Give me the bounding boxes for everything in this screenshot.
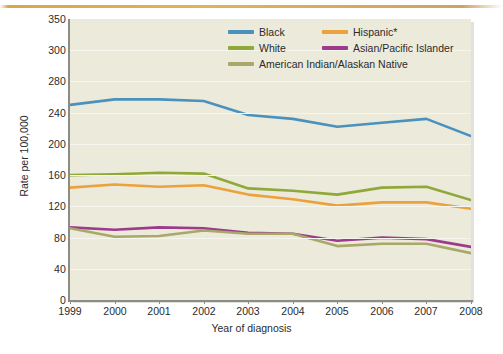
y-tick-label: 120 xyxy=(8,201,66,211)
x-tick-label: 2003 xyxy=(225,305,271,317)
legend-label: American Indian/Alaskan Native xyxy=(259,58,408,70)
y-tick-label: 160 xyxy=(8,170,66,180)
y-tick-label: 240 xyxy=(8,108,66,118)
legend-swatch-icon xyxy=(228,46,254,50)
x-tick-mark xyxy=(382,300,383,304)
legend-entry: Black xyxy=(228,26,322,38)
y-tick-label: 200 xyxy=(8,139,66,149)
x-tick-label: 2007 xyxy=(403,305,449,317)
gridline xyxy=(70,81,471,82)
legend-swatch-icon xyxy=(228,62,254,66)
x-tick-label: 2006 xyxy=(359,305,405,317)
legend-row: American Indian/Alaskan Native xyxy=(228,56,468,72)
legend-swatch-icon xyxy=(322,30,348,34)
x-tick-label: 2002 xyxy=(181,305,227,317)
x-tick-label: 2004 xyxy=(270,305,316,317)
x-axis-line xyxy=(68,300,473,302)
legend-entry: Asian/Pacific Islander xyxy=(322,42,453,54)
y-axis-line xyxy=(68,19,70,302)
gridline xyxy=(70,238,471,239)
y-tick-label: 350 xyxy=(8,14,66,24)
legend-entry: Hispanic* xyxy=(322,26,397,38)
y-axis-tick-labels: 35030028024020016012080400 xyxy=(0,0,66,354)
x-axis-title: Year of diagnosis xyxy=(0,322,503,334)
legend-swatch-icon xyxy=(228,30,254,34)
x-tick-mark xyxy=(248,300,249,304)
x-tick-mark xyxy=(70,300,71,304)
legend-swatch-icon xyxy=(322,46,348,50)
y-tick-label: 300 xyxy=(8,45,66,55)
gridline xyxy=(70,206,471,207)
legend-label: Black xyxy=(259,26,285,38)
y-tick-label: 40 xyxy=(8,264,66,274)
y-tick-label: 280 xyxy=(8,76,66,86)
series-line xyxy=(70,99,471,136)
x-tick-label: 2001 xyxy=(136,305,182,317)
x-tick-mark xyxy=(337,300,338,304)
y-axis-title: Rate per 100,000 xyxy=(18,96,30,216)
gridline xyxy=(70,113,471,114)
legend-entry: American Indian/Alaskan Native xyxy=(228,58,408,70)
x-tick-mark xyxy=(204,300,205,304)
x-tick-mark xyxy=(115,300,116,304)
x-tick-mark xyxy=(293,300,294,304)
x-tick-mark xyxy=(159,300,160,304)
x-tick-label: 2008 xyxy=(448,305,494,317)
x-tick-mark xyxy=(426,300,427,304)
legend-label: White xyxy=(259,42,286,54)
legend-label: Asian/Pacific Islander xyxy=(353,42,453,54)
chart-legend: BlackHispanic*WhiteAsian/Pacific Islande… xyxy=(228,24,468,72)
y-tick-label: 80 xyxy=(8,233,66,243)
legend-entry: White xyxy=(228,42,322,54)
x-tick-mark xyxy=(471,300,472,304)
series-line xyxy=(70,228,471,253)
legend-row: BlackHispanic* xyxy=(228,24,468,40)
legend-row: WhiteAsian/Pacific Islander xyxy=(228,40,468,56)
gridline xyxy=(70,269,471,270)
legend-label: Hispanic* xyxy=(353,26,397,38)
gridline xyxy=(70,175,471,176)
x-tick-label: 2000 xyxy=(92,305,138,317)
line-chart-figure: 35030028024020016012080400 1999200020012… xyxy=(0,0,503,354)
gridline xyxy=(70,144,471,145)
x-tick-label: 1999 xyxy=(47,305,93,317)
x-axis-tick-labels: 1999200020012002200320042005200620072008 xyxy=(0,305,503,321)
x-tick-label: 2005 xyxy=(314,305,360,317)
y-tick-label: 0 xyxy=(8,295,66,305)
